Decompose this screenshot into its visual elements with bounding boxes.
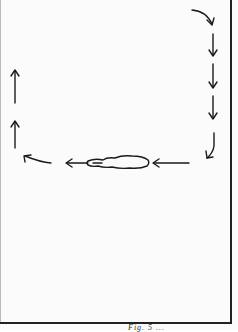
- arrow-left-icon: [66, 159, 88, 167]
- arrow-up-icon: [11, 121, 19, 148]
- arrow-down-icon: [209, 34, 217, 56]
- curved-arrow-up-left-icon: [24, 155, 51, 163]
- curved-arrow-down-left-icon: [206, 133, 214, 158]
- curved-arrow-down-icon: [192, 10, 214, 25]
- arrow-left-icon: [153, 159, 189, 167]
- figure-caption: Fig. 5 ...: [128, 323, 165, 332]
- arrow-up-icon: [11, 70, 19, 103]
- elongated-blob-shape: [87, 156, 149, 169]
- arrow-down-icon: [209, 96, 217, 119]
- arrow-down-icon: [209, 64, 217, 88]
